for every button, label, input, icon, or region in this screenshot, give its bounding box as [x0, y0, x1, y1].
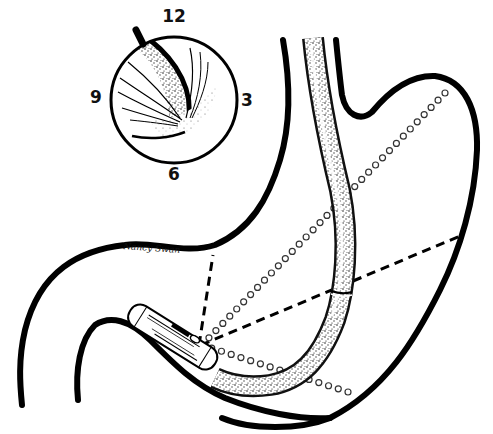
dotted-line-to-fundus-dot: [282, 256, 288, 262]
dotted-line-to-fundus-dot: [310, 227, 316, 233]
dotted-line-to-fundus-dot: [213, 328, 219, 334]
dotted-line-to-fundus-dot: [373, 162, 379, 168]
dotted-line-to-fundus-dot: [227, 313, 233, 319]
dotted-line-to-fundus-dot: [393, 140, 399, 146]
clock-label-6: 6: [168, 164, 180, 184]
dotted-line-to-fundus-dot: [352, 184, 358, 190]
dotted-line-to-antrum-dot: [316, 380, 322, 386]
dotted-line-to-antrum-dot: [218, 348, 224, 354]
dotted-line-to-antrum-dot: [248, 358, 254, 364]
dotted-line-to-fundus-dot: [407, 126, 413, 132]
dotted-line-to-antrum-dot: [345, 389, 351, 395]
clock-label-3: 3: [241, 90, 253, 110]
inset-endoscopic-view: 12 3 6 9: [90, 6, 253, 184]
endoscopy-illustration: Nancy Swan 12 3 6 9: [0, 0, 493, 434]
dotted-line-to-fundus-dot: [289, 248, 295, 254]
inset-scope-nub: [136, 30, 143, 44]
dotted-line-to-fundus-dot: [380, 155, 386, 161]
dotted-line-to-fundus-dot: [400, 133, 406, 139]
dotted-line-to-fundus-dot: [234, 306, 240, 312]
dotted-line-to-fundus-dot: [255, 284, 261, 290]
dotted-line-to-fundus-dot: [359, 176, 365, 182]
dotted-line-to-fundus-dot: [220, 320, 226, 326]
dotted-line-to-fundus-dot: [386, 148, 392, 154]
dotted-line-to-fundus-dot: [248, 292, 254, 298]
clock-label-12: 12: [162, 6, 186, 26]
dotted-line-to-fundus-dot: [275, 263, 281, 269]
clock-label-9: 9: [90, 87, 102, 107]
dotted-line-to-fundus-dot: [268, 270, 274, 276]
dotted-line-to-antrum-dot: [238, 355, 244, 361]
dotted-line-to-antrum-dot: [335, 386, 341, 392]
dotted-line-to-antrum-dot: [326, 383, 332, 389]
dotted-line-to-fundus-dot: [324, 212, 330, 218]
artist-signature: Nancy Swan: [122, 241, 181, 255]
dotted-line-to-fundus-dot: [366, 169, 372, 175]
dotted-line-to-fundus-dot: [261, 277, 267, 283]
dotted-line-to-fundus-dot: [442, 90, 448, 96]
dotted-line-to-fundus-dot: [414, 119, 420, 125]
dotted-line-to-fundus-dot: [317, 220, 323, 226]
dotted-line-to-fundus-dot: [303, 234, 309, 240]
dotted-line-to-fundus-dot: [206, 335, 212, 341]
dotted-line-to-fundus-dot: [435, 97, 441, 103]
dotted-line-to-fundus-dot: [428, 104, 434, 110]
dashed-line-to-lesser-curvature: [199, 255, 213, 345]
dotted-line-to-antrum-dot: [257, 361, 263, 367]
dotted-line-to-antrum-dot: [267, 364, 273, 370]
dotted-line-to-fundus-dot: [296, 241, 302, 247]
dotted-line-to-fundus-dot: [241, 299, 247, 305]
dotted-line-to-fundus-dot: [421, 112, 427, 118]
dotted-line-to-antrum-dot: [228, 351, 234, 357]
